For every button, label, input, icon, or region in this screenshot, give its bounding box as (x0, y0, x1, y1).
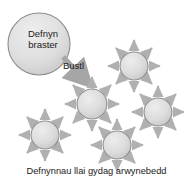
droplet-center-left (65, 77, 119, 131)
droplet-top-right (108, 40, 160, 92)
droplet-bottom-mid (91, 119, 143, 171)
droplet-bottom-left (19, 109, 71, 161)
emulsification-diagram: Defnyn braster Bustl Defnynnau llai gyda… (0, 0, 193, 183)
fat-droplet (8, 13, 70, 75)
droplet-right (132, 86, 184, 138)
bile-arrow (63, 57, 85, 80)
diagram-canvas (0, 0, 193, 183)
